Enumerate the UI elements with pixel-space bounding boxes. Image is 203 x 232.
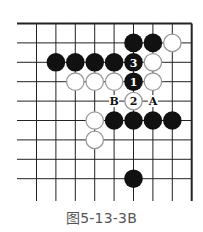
black-stone-body bbox=[47, 53, 66, 72]
white-stone-body bbox=[86, 112, 103, 129]
black-stone-body bbox=[144, 111, 163, 130]
black-stone bbox=[66, 53, 85, 72]
black-stone bbox=[144, 111, 163, 130]
white-stone-body bbox=[144, 54, 161, 71]
figure-caption: 图5-13-3B bbox=[0, 207, 203, 227]
black-stone-body bbox=[124, 34, 143, 53]
black-stone bbox=[124, 111, 143, 130]
white-stone-body bbox=[105, 73, 122, 90]
black-stone-body bbox=[144, 34, 163, 53]
move-number-label: 3 bbox=[130, 57, 138, 70]
board-grid bbox=[17, 24, 192, 202]
go-board: 312 BA bbox=[0, 0, 203, 205]
black-stone: 1 bbox=[124, 72, 143, 91]
white-stone bbox=[86, 131, 103, 148]
white-stone-body bbox=[86, 73, 103, 90]
move-number-label: 2 bbox=[130, 95, 138, 108]
black-stone-body bbox=[66, 53, 85, 72]
white-stone bbox=[144, 73, 161, 90]
point-label-b: B bbox=[109, 95, 118, 108]
white-stone bbox=[105, 73, 122, 90]
white-stone bbox=[86, 112, 103, 129]
black-stone bbox=[124, 34, 143, 53]
white-stone-body bbox=[144, 73, 161, 90]
black-stone bbox=[124, 169, 143, 188]
white-stone bbox=[86, 73, 103, 90]
black-stone bbox=[105, 111, 124, 130]
white-stone bbox=[67, 73, 84, 90]
black-stone bbox=[47, 53, 66, 72]
point-label-a: A bbox=[148, 95, 158, 108]
black-stone-body bbox=[105, 111, 124, 130]
black-stone-body bbox=[85, 53, 104, 72]
white-stone-body bbox=[67, 73, 84, 90]
white-stone: 2 bbox=[125, 92, 142, 109]
black-stone-body bbox=[163, 111, 182, 130]
white-stone-body bbox=[86, 131, 103, 148]
black-stone bbox=[85, 53, 104, 72]
black-stone-body bbox=[124, 111, 143, 130]
move-number-label: 1 bbox=[130, 76, 138, 89]
black-stone bbox=[144, 34, 163, 53]
black-stone bbox=[105, 53, 124, 72]
white-stone-body bbox=[164, 34, 181, 51]
black-stone-body bbox=[124, 169, 143, 188]
white-stone bbox=[164, 34, 181, 51]
black-stone-body bbox=[105, 53, 124, 72]
black-stone bbox=[163, 111, 182, 130]
white-stone bbox=[144, 54, 161, 71]
black-stone: 3 bbox=[124, 53, 143, 72]
